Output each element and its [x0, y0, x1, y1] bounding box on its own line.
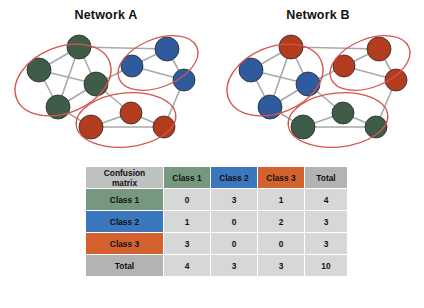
graph-node-red: [385, 69, 407, 91]
graph-node-red: [120, 102, 142, 124]
confusion-matrix-table: Confusion matrix Class 1 Class 2 Class 3…: [85, 166, 348, 277]
graph-node-blue: [155, 37, 179, 61]
table-header-row: Confusion matrix Class 1 Class 2 Class 3…: [86, 167, 347, 188]
graph-nodes: [239, 35, 407, 139]
graph-node-red: [367, 37, 391, 61]
cell-r1c2: 3: [211, 189, 257, 210]
table-row: Total 4 3 3 10: [86, 255, 347, 276]
row-header-total: Total: [86, 255, 163, 276]
graph-node-blue: [173, 69, 195, 91]
cell-r3c2: 0: [211, 233, 257, 254]
graph-node-green: [332, 102, 354, 124]
graph-edge: [79, 47, 167, 49]
cell-grand-total: 10: [305, 255, 347, 276]
column-header-class-1: Class 1: [164, 167, 210, 188]
corner-label-line2: matrix: [86, 178, 163, 188]
cell-r2c2: 0: [211, 211, 257, 232]
row-header-class-1: Class 1: [86, 189, 163, 210]
network-b-graph: [212, 0, 424, 155]
column-header-class-3: Class 3: [258, 167, 304, 188]
cell-r1c1: 0: [164, 189, 210, 210]
cell-total-c3: 3: [258, 255, 304, 276]
confusion-matrix: Confusion matrix Class 1 Class 2 Class 3…: [85, 166, 346, 277]
graph-node-green: [84, 72, 108, 96]
graph-node-red: [79, 115, 103, 139]
cell-r2c3: 2: [258, 211, 304, 232]
cell-r3c3: 0: [258, 233, 304, 254]
graph-nodes: [27, 35, 195, 139]
row-header-class-3: Class 3: [86, 233, 163, 254]
cell-total-c1: 4: [164, 255, 210, 276]
cell-r1-total: 4: [305, 189, 347, 210]
table-row: Class 2 1 0 2 3: [86, 211, 347, 232]
corner-label-line1: Confusion: [86, 168, 163, 178]
network-a-graph: [0, 0, 212, 155]
network-panel-a: Network A: [0, 0, 212, 155]
graph-node-green: [291, 115, 315, 139]
matrix-corner-label: Confusion matrix: [86, 167, 163, 188]
cell-r3c1: 3: [164, 233, 210, 254]
column-header-total: Total: [305, 167, 347, 188]
graph-node-blue: [296, 72, 320, 96]
row-header-class-2: Class 2: [86, 211, 163, 232]
graph-node-red: [279, 35, 303, 59]
network-panel-b: Network B: [212, 0, 424, 155]
cell-r2-total: 3: [305, 211, 347, 232]
table-row: Class 1 0 3 1 4: [86, 189, 347, 210]
graph-node-green: [67, 35, 91, 59]
column-header-class-2: Class 2: [211, 167, 257, 188]
figure-root: Network A Network B Confusion matrix Cla…: [0, 0, 424, 308]
cell-r1c3: 1: [258, 189, 304, 210]
table-row: Class 3 3 0 0 3: [86, 233, 347, 254]
cell-r2c1: 1: [164, 211, 210, 232]
graph-edge: [291, 47, 379, 49]
cell-total-c2: 3: [211, 255, 257, 276]
cell-r3-total: 3: [305, 233, 347, 254]
